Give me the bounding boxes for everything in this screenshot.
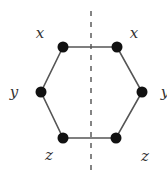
vertex-bottom-right <box>111 133 122 144</box>
label-bottom-right: z <box>140 147 149 165</box>
label-top-right: x <box>130 24 139 42</box>
label-mid-right: y <box>160 83 167 101</box>
vertex-top-right <box>112 42 123 53</box>
label-bottom-left: z <box>44 146 53 164</box>
vertex-mid-right <box>137 87 148 98</box>
vertex-mid-left <box>36 87 47 98</box>
label-mid-left: y <box>9 83 19 101</box>
vertex-top-left <box>58 42 69 53</box>
label-top-left: x <box>36 24 45 42</box>
vertex-bottom-left <box>58 133 69 144</box>
hexagon-symmetry-diagram: xxyyzz <box>0 0 167 185</box>
